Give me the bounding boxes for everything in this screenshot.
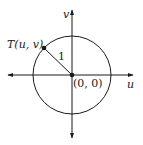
point-t-label: T(u, v): [7, 38, 43, 51]
unit-circle-diagram: T(u, v) 1 (0, 0) u v: [0, 0, 143, 145]
radius-label: 1: [58, 50, 65, 63]
origin-label: (0, 0): [73, 77, 103, 90]
v-axis-label: v: [63, 8, 70, 21]
u-axis-label: u: [127, 78, 134, 91]
